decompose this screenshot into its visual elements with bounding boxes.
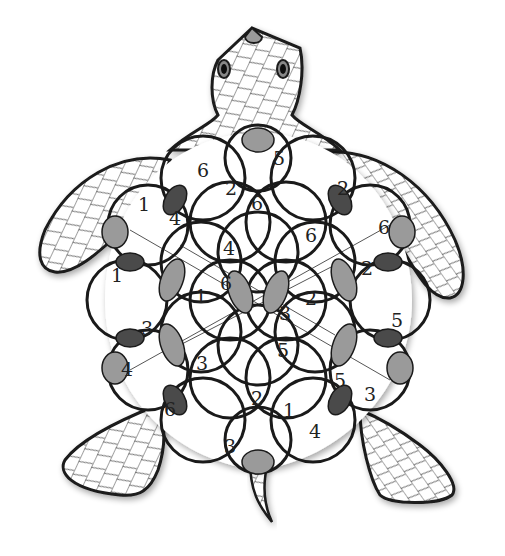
number-label: 6 bbox=[251, 194, 263, 213]
number-label: 5 bbox=[273, 149, 285, 168]
number-label: 2 bbox=[337, 179, 349, 198]
number-label: 5 bbox=[277, 341, 289, 360]
number-label: 3 bbox=[364, 385, 376, 404]
number-label: 6 bbox=[220, 274, 232, 293]
number-label: 2 bbox=[225, 179, 237, 198]
number-label: 5 bbox=[334, 371, 346, 390]
number-label: 3 bbox=[141, 319, 153, 338]
number-label: 6 bbox=[305, 226, 317, 245]
number-label: 3 bbox=[196, 354, 208, 373]
number-label: 1 bbox=[283, 401, 295, 420]
number-label: 3 bbox=[224, 437, 236, 456]
number-label: 6 bbox=[378, 218, 390, 237]
number-label: 4 bbox=[121, 360, 133, 379]
number-label: 2 bbox=[251, 389, 263, 408]
number-label: 6 bbox=[197, 161, 209, 180]
number-label: 1 bbox=[195, 287, 207, 306]
number-label: 4 bbox=[223, 239, 235, 258]
number-label: 1 bbox=[138, 195, 150, 214]
number-label: 1 bbox=[111, 266, 123, 285]
number-label: 2 bbox=[361, 259, 373, 278]
number-label: 4 bbox=[169, 209, 181, 228]
rear-left-flipper bbox=[63, 405, 164, 495]
number-label: 4 bbox=[309, 422, 321, 441]
number-label: 2 bbox=[305, 289, 317, 308]
number-label: 5 bbox=[391, 311, 403, 330]
turtle-puzzle-illustration bbox=[0, 0, 505, 556]
rear-right-flipper bbox=[360, 410, 454, 503]
number-label: 6 bbox=[164, 400, 176, 419]
number-label: 3 bbox=[279, 304, 291, 323]
